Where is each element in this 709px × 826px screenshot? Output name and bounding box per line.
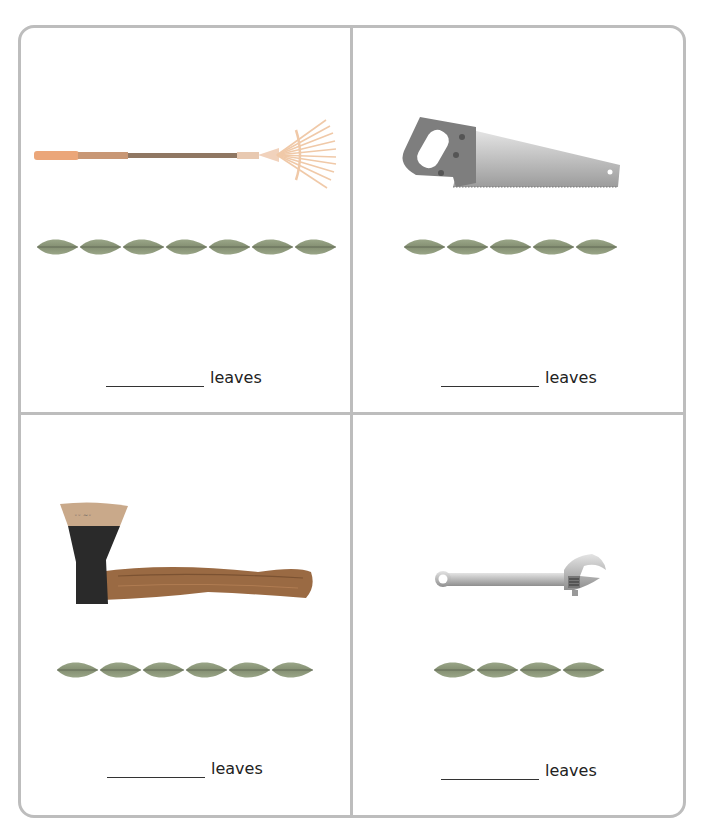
- unit-label: leaves: [545, 369, 597, 387]
- leaf-row-saw: [403, 238, 618, 256]
- leaf-icon: [228, 661, 271, 679]
- leaf-icon: [519, 661, 562, 679]
- leaf-icon: [271, 661, 314, 679]
- leaf-icon: [142, 661, 185, 679]
- leaf-icon: [165, 238, 208, 256]
- leaf-icon: [489, 238, 532, 256]
- answer-wrench: leaves: [441, 762, 597, 780]
- leaf-icon: [251, 238, 294, 256]
- wrench-icon: [432, 552, 608, 602]
- answer-saw: leaves: [441, 369, 597, 387]
- leaf-icon: [56, 661, 99, 679]
- svg-text:◦◦ ~◦: ◦◦ ~◦: [74, 511, 92, 518]
- answer-blank-wrench[interactable]: [441, 763, 539, 780]
- leaf-icon: [575, 238, 618, 256]
- answer-blank-axe[interactable]: [107, 761, 205, 778]
- unit-label: leaves: [545, 762, 597, 780]
- leaf-row-rake: [36, 238, 337, 256]
- answer-axe: leaves: [107, 760, 263, 778]
- leaf-icon: [433, 661, 476, 679]
- leaf-icon: [99, 661, 142, 679]
- rake-icon: [34, 118, 340, 196]
- leaf-row-wrench: [433, 661, 605, 679]
- unit-label: leaves: [211, 760, 263, 778]
- leaf-icon: [403, 238, 446, 256]
- axe-icon: ◦◦ ~◦: [58, 502, 314, 608]
- leaf-icon: [79, 238, 122, 256]
- leaf-icon: [185, 661, 228, 679]
- leaf-icon: [122, 238, 165, 256]
- vertical-divider: [350, 25, 353, 818]
- leaf-icon: [476, 661, 519, 679]
- leaf-icon: [208, 238, 251, 256]
- leaf-icon: [562, 661, 605, 679]
- leaf-row-axe: [56, 661, 314, 679]
- leaf-icon: [36, 238, 79, 256]
- leaf-icon: [294, 238, 337, 256]
- answer-rake: leaves: [106, 369, 262, 387]
- leaf-icon: [532, 238, 575, 256]
- answer-blank-rake[interactable]: [106, 370, 204, 387]
- answer-blank-saw[interactable]: [441, 370, 539, 387]
- leaf-icon: [446, 238, 489, 256]
- horizontal-divider: [18, 412, 686, 415]
- unit-label: leaves: [210, 369, 262, 387]
- saw-icon: [398, 115, 623, 193]
